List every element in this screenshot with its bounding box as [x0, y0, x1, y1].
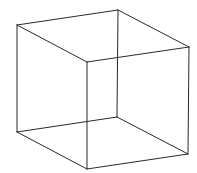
cube-edge-AB: [17, 10, 118, 25]
cube-edge-BF: [117, 10, 118, 117]
cube-edge-FG: [117, 117, 188, 154]
cube-edge-BC: [118, 10, 189, 47]
cube-edge-CD: [87, 47, 189, 62]
cube-edge-EF: [17, 117, 117, 132]
cube-edge-GH: [87, 154, 188, 169]
wireframe-cube-diagram: [0, 0, 197, 173]
cube-edge-CG: [188, 47, 189, 154]
cube-edge-HE: [17, 132, 87, 169]
cube-edge-DA: [17, 25, 87, 62]
